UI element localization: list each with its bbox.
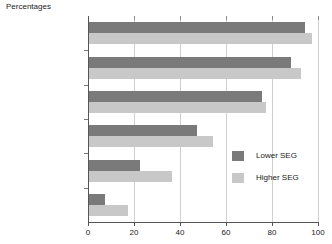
- chart-title: Percentages: [6, 2, 51, 12]
- gridline: [226, 16, 227, 222]
- bar: [89, 102, 266, 113]
- x-axis-tick: [180, 222, 181, 226]
- gridline: [134, 16, 135, 222]
- bar: [89, 171, 172, 182]
- x-axis-tick-top: [134, 16, 135, 20]
- x-axis-tick: [318, 222, 319, 226]
- legend-label: Lower SEG: [256, 150, 297, 161]
- x-axis-tick-label: 0: [86, 228, 90, 238]
- x-axis-tick-top: [226, 16, 227, 20]
- plot-area: 020406080100 A level points 25or moreA l…: [88, 16, 318, 222]
- x-axis-tick-label: 20: [130, 228, 139, 238]
- x-axis-tick: [272, 222, 273, 226]
- x-axis-tick-label: 80: [268, 228, 277, 238]
- legend-label: Higher SEG: [256, 172, 299, 183]
- y-axis-tick: [84, 119, 88, 120]
- x-axis-tick: [226, 222, 227, 226]
- bar: [89, 22, 305, 33]
- bar: [89, 68, 301, 79]
- bar-chart: Percentages 020406080100 A level points …: [0, 0, 332, 244]
- bar: [89, 205, 128, 216]
- legend-swatch-icon: [232, 151, 244, 161]
- bar: [89, 91, 262, 102]
- bar: [89, 33, 312, 44]
- x-axis-tick-label: 60: [222, 228, 231, 238]
- bar: [89, 136, 213, 147]
- gridline: [180, 16, 181, 222]
- x-axis-tick: [134, 222, 135, 226]
- bar: [89, 57, 291, 68]
- x-axis-tick-label: 40: [176, 228, 185, 238]
- y-axis-tick: [84, 153, 88, 154]
- y-axis-line: [88, 16, 89, 222]
- x-axis-tick-top: [180, 16, 181, 20]
- legend-item-lower-seg: Lower SEG: [232, 148, 316, 170]
- y-axis-tick: [84, 85, 88, 86]
- x-axis-tick-top: [318, 16, 319, 20]
- y-axis-tick: [84, 50, 88, 51]
- bar: [89, 194, 105, 205]
- x-axis-tick: [88, 222, 89, 226]
- y-axis-tick: [84, 188, 88, 189]
- x-axis-tick-label: 100: [311, 228, 324, 238]
- chart-legend: Lower SEG Higher SEG: [232, 148, 316, 192]
- bar: [89, 160, 140, 171]
- gridline: [318, 16, 319, 222]
- x-axis-tick-top: [272, 16, 273, 20]
- bar: [89, 125, 197, 136]
- legend-swatch-icon: [232, 173, 244, 183]
- x-axis-line: [88, 222, 319, 223]
- legend-item-higher-seg: Higher SEG: [232, 170, 316, 192]
